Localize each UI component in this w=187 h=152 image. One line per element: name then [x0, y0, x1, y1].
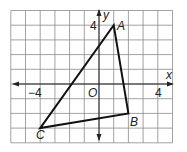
y-axis-bottom-arrow-icon	[97, 134, 102, 141]
vertex-label-b: B	[130, 115, 138, 129]
y-tick-label-4: 4	[90, 19, 97, 33]
x-axis-right-arrow-icon	[167, 82, 174, 87]
y-axis-label: y	[102, 8, 110, 22]
x-tick-label-neg4: −4	[28, 86, 42, 100]
y-axis-top-arrow-icon	[97, 9, 102, 16]
x-tick-label-4: 4	[155, 86, 162, 100]
origin-label: O	[88, 86, 97, 100]
x-axis-label: x	[165, 68, 173, 82]
coordinate-plane: x y O −4 4 4 A B C	[0, 0, 187, 152]
vertex-label-a: A	[116, 19, 125, 33]
vertex-label-c: C	[36, 128, 45, 142]
x-axis-left-arrow-icon	[12, 82, 19, 87]
